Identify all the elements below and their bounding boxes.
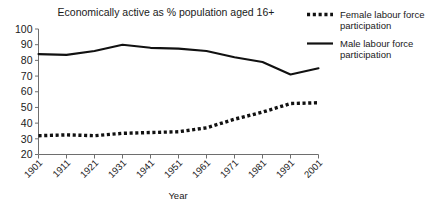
y-tick-label: 50 — [21, 101, 33, 113]
legend-label-male-line2: participation — [340, 49, 391, 60]
y-tick-label: 80 — [21, 54, 33, 66]
y-tick-label: 30 — [21, 133, 33, 145]
x-tick-label: 1971 — [218, 157, 241, 180]
x-tick-label: 1901 — [22, 157, 45, 180]
x-tick-label: 1921 — [78, 157, 101, 180]
y-tick-labels: 1009080706050403020 — [15, 23, 33, 161]
legend-label-female-line1: Female labour force — [340, 9, 424, 20]
x-tick-label: 1931 — [106, 157, 129, 180]
x-tick-marks — [39, 155, 319, 159]
legend-item-male: Male labour force participation — [307, 38, 413, 60]
y-tick-label: 90 — [21, 38, 33, 50]
chart-legend: Female labour force participation Male l… — [307, 9, 424, 60]
x-tick-label: 1961 — [190, 157, 213, 180]
data-series-group — [39, 45, 319, 136]
chart-figure: Economically active as % population aged… — [0, 0, 433, 218]
chart-canvas: Economically active as % population aged… — [0, 0, 433, 218]
y-tick-label: 60 — [21, 85, 33, 97]
series-line-male — [39, 45, 319, 75]
x-tick-label: 1911 — [50, 157, 72, 179]
x-tick-label: 2001 — [302, 157, 325, 180]
x-tick-label: 1951 — [162, 157, 185, 180]
legend-label-male-line1: Male labour force — [340, 38, 413, 49]
x-axis-title: Year — [168, 190, 187, 201]
y-tick-label: 70 — [21, 70, 33, 82]
chart-title: Economically active as % population aged… — [58, 6, 275, 18]
y-tick-label: 40 — [21, 117, 33, 129]
legend-label-female-line2: participation — [340, 20, 391, 31]
y-tick-label: 100 — [15, 23, 33, 35]
x-tick-labels: 1901191119211931194119511961197119811991… — [22, 157, 325, 180]
x-axis: 1901191119211931194119511961197119811991… — [22, 155, 325, 180]
series-line-female — [39, 103, 319, 136]
y-tick-label: 20 — [21, 148, 33, 160]
y-axis: 1009080706050403020 — [15, 23, 39, 161]
x-tick-label: 1941 — [134, 157, 157, 180]
legend-item-female: Female labour force participation — [307, 9, 424, 31]
x-tick-label: 1991 — [274, 157, 297, 180]
y-tick-marks — [35, 29, 39, 155]
x-tick-label: 1981 — [246, 157, 269, 180]
